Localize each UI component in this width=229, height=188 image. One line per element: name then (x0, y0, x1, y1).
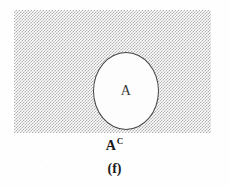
set-a-label: A (94, 53, 158, 129)
venn-diagram-figure: A AC (f) (0, 0, 229, 188)
complement-label: AC (0, 136, 229, 154)
universal-set-rectangle: A (14, 10, 211, 133)
set-a-ellipse: A (93, 52, 159, 130)
figure-caption: (f) (0, 161, 229, 177)
complement-superscript: C (117, 136, 124, 146)
complement-base-letter: A (106, 138, 116, 153)
